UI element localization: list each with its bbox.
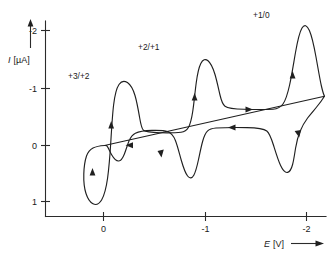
x-axis-direction-arrow-head: [316, 240, 325, 246]
y-tick-label-one: 1: [32, 197, 37, 207]
y-tick-label-zero: 0: [32, 141, 37, 151]
cathodic-sweep-path: [84, 26, 325, 205]
flow-arrow-cathodic-wave-2: [192, 93, 198, 101]
x-axis-title: E[V]: [264, 239, 284, 249]
peak-labels-group: +3/+2 +2/+1 +1/0: [68, 10, 270, 81]
x-axis-title-symbol: E: [264, 239, 271, 249]
flow-arrow-cathodic-plateau: [246, 106, 254, 112]
peak-label-3-2: +3/+2: [68, 71, 90, 81]
y-axis-title-unit: [µA]: [14, 55, 30, 65]
x-axis-title-unit: [V]: [273, 239, 284, 249]
x-axis-title-group: E[V]: [264, 239, 324, 249]
figure-container: -2 -1 0 1 0 -1 -2 I[µA] E[V]: [0, 0, 331, 256]
voltammogram-trace-group: [84, 26, 325, 205]
cyclic-voltammogram-chart: -2 -1 0 1 0 -1 -2 I[µA] E[V]: [0, 0, 331, 256]
flow-arrow-anodic-plateau: [228, 125, 236, 131]
flow-arrow-anodic-wave-2: [158, 150, 164, 158]
y-axis-title-symbol: I: [8, 55, 11, 65]
y-tick-label-minus1: -1: [29, 84, 37, 94]
peak-label-2-1: +2/+1: [138, 42, 160, 52]
axes-group: [46, 21, 327, 217]
y-axis-direction-arrow-head: [28, 19, 34, 27]
flow-arrow-cathodic-wave-3: [290, 71, 296, 79]
x-tick-label-minus2: -2: [302, 224, 310, 234]
flow-arrow-cathodic-wave-1: [108, 121, 114, 129]
x-tick-label-minus1: -1: [201, 224, 209, 234]
peak-label-1-0: +1/0: [253, 10, 270, 20]
y-axis-title-group: I[µA]: [8, 19, 33, 65]
y-axis-title: I[µA]: [8, 55, 30, 65]
x-ticks-group: 0 -1 -2: [101, 212, 311, 234]
flow-arrow-anodic-wave-1: [90, 168, 96, 176]
x-tick-label-zero: 0: [101, 224, 106, 234]
y-ticks-group: -2 -1 0 1: [29, 26, 50, 207]
